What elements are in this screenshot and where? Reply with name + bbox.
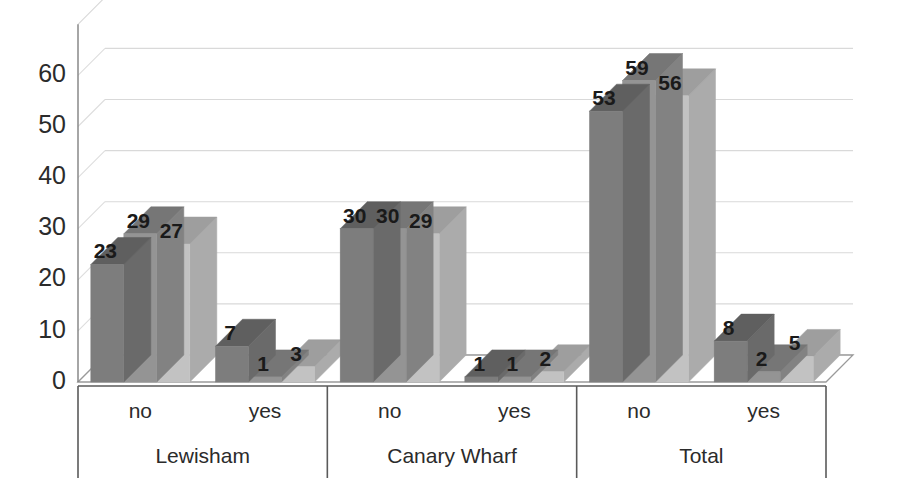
bar-series-1-slot-4 [590, 84, 650, 382]
y-tick-label-0: 0 [52, 366, 66, 394]
y-tick-label-60: 60 [38, 59, 66, 87]
bar-side-face [190, 217, 217, 382]
category-label-yes-3: yes [498, 399, 531, 422]
category-label-no-4: no [627, 399, 650, 422]
data-label: 5 [789, 331, 801, 354]
y-tick-label-50: 50 [38, 110, 66, 138]
data-label: 2 [756, 347, 768, 370]
column-chart-3d: 232927713303029112535956825 010203040506… [0, 0, 912, 499]
data-label: 53 [592, 86, 615, 109]
data-label: 29 [127, 209, 150, 232]
group-label-canary-wharf: Canary Wharf [387, 444, 517, 467]
bar-front-face [340, 229, 373, 382]
data-label: 29 [409, 209, 432, 232]
gridline-depth-segment [78, 151, 105, 178]
bar-front-face [498, 377, 531, 382]
group-label-lewisham: Lewisham [155, 444, 250, 467]
bar-side-face [373, 202, 400, 382]
chart-container: 232927713303029112535956825 010203040506… [0, 0, 912, 499]
y-tick-label-20: 20 [38, 263, 66, 291]
data-label: 8 [723, 316, 735, 339]
bar-side-face [623, 84, 650, 382]
gridline-top [78, 0, 853, 24]
bar-front-face [216, 346, 249, 382]
bar-front-face [249, 377, 282, 382]
data-label: 7 [224, 321, 236, 344]
gridline-depth-segment [78, 100, 105, 127]
category-axis-table: noyesnoyesnoyesLewishamCanary WharfTotal [78, 386, 826, 478]
data-label: 1 [473, 352, 485, 375]
data-label: 23 [94, 239, 117, 262]
data-label: 56 [658, 71, 681, 94]
group-label-total: Total [679, 444, 723, 467]
bar-side-face [439, 207, 466, 382]
data-label: 1 [506, 352, 518, 375]
bar-front-face [590, 111, 623, 382]
bar-front-face [91, 264, 124, 382]
gridline-depth-segment [78, 202, 105, 229]
y-axis-tick-labels: 0102030405060 [38, 59, 66, 394]
bar-side-face [656, 54, 683, 382]
category-label-no-2: no [378, 399, 401, 422]
bar-front-face [714, 341, 747, 382]
category-label-yes-5: yes [747, 399, 780, 422]
bar-front-face [465, 377, 498, 382]
data-label: 59 [625, 56, 648, 79]
data-label: 3 [290, 342, 302, 365]
y-tick-label-40: 40 [38, 161, 66, 189]
data-label: 1 [257, 352, 269, 375]
bar-side-face [689, 69, 716, 382]
category-label-no-0: no [129, 399, 152, 422]
y-tick-label-30: 30 [38, 212, 66, 240]
category-label-yes-1: yes [249, 399, 282, 422]
y-tick-label-10: 10 [38, 315, 66, 343]
data-label: 2 [539, 347, 551, 370]
data-label: 30 [343, 204, 366, 227]
data-label: 30 [376, 204, 399, 227]
bar-series-1-slot-2 [340, 202, 400, 382]
gridline-depth-segment [78, 48, 105, 75]
data-label: 27 [160, 219, 183, 242]
